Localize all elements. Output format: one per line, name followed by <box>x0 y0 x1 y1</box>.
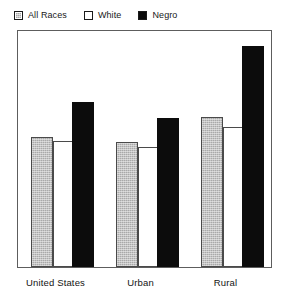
legend-swatch-negro-icon <box>138 11 147 20</box>
x-axis-labels: United StatesUrbanRural <box>17 277 272 293</box>
bar-negro-united-states <box>72 102 94 267</box>
legend-item-all-races: All Races <box>14 11 67 20</box>
bar-all-races-united-states <box>31 137 53 267</box>
chart-legend: All Races White Negro <box>14 7 194 23</box>
bar-all-races-urban <box>116 142 138 267</box>
bar-negro-urban <box>157 118 179 267</box>
plot-area <box>17 30 272 268</box>
legend-label-all-races: All Races <box>28 11 67 20</box>
legend-label-white: White <box>98 11 122 20</box>
x-axis-label-urban: Urban <box>127 277 154 289</box>
legend-swatch-all-races-icon <box>14 11 23 20</box>
x-axis-label-rural: Rural <box>214 277 237 289</box>
bar-chart: All Races White Negro United StatesUrban… <box>0 0 282 304</box>
legend-item-negro: Negro <box>138 11 177 20</box>
legend-label-negro: Negro <box>152 11 177 20</box>
legend-swatch-white-icon <box>84 11 93 20</box>
bar-negro-rural <box>242 46 264 267</box>
bar-all-races-rural <box>201 117 223 267</box>
x-axis-label-united-states: United States <box>26 277 85 289</box>
legend-item-white: White <box>84 11 122 20</box>
